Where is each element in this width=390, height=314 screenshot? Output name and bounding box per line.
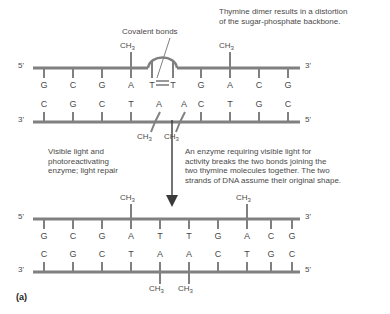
methyl-label: CH3 bbox=[164, 132, 179, 141]
base: A bbox=[223, 80, 237, 90]
strand-end-3prime: 3' bbox=[305, 212, 311, 221]
base: A bbox=[182, 249, 196, 259]
base: C bbox=[95, 249, 109, 259]
panel-label: (a) bbox=[16, 292, 27, 302]
strand-end-5prime: 5' bbox=[305, 265, 311, 274]
repaired-top-strand bbox=[33, 204, 300, 229]
base: G bbox=[95, 80, 109, 90]
methyl-stems bbox=[131, 204, 247, 219]
left-process-text: Visible light and photoreactivating enzy… bbox=[48, 147, 118, 176]
methyl-label: CH3 bbox=[149, 284, 164, 293]
methyl-label: CH3 bbox=[236, 193, 251, 202]
base: C bbox=[66, 80, 80, 90]
damaged-top-strand bbox=[33, 38, 300, 85]
strand-end-3prime: 3' bbox=[305, 61, 311, 70]
base: G bbox=[66, 249, 80, 259]
damaged-bottom-strand bbox=[33, 112, 300, 132]
methyl-label: CH3 bbox=[137, 132, 152, 141]
base: G bbox=[95, 231, 109, 241]
base: G bbox=[211, 231, 225, 241]
base: C bbox=[281, 99, 295, 109]
base: G bbox=[37, 231, 51, 241]
base: T bbox=[124, 249, 138, 259]
base: T bbox=[124, 99, 138, 109]
strand-end-3prime: 3' bbox=[18, 265, 24, 274]
base: T bbox=[223, 99, 237, 109]
base: A bbox=[152, 99, 166, 109]
methyl-label: CH3 bbox=[120, 41, 135, 50]
base: A bbox=[240, 231, 254, 241]
base: C bbox=[252, 80, 266, 90]
base: C bbox=[95, 99, 109, 109]
distortion-note-text: Thymine dimer results in a distortion of… bbox=[219, 7, 348, 26]
base: A bbox=[124, 80, 138, 90]
right-process-text: An enzyme requiring visible light for ac… bbox=[185, 147, 341, 185]
base: A bbox=[124, 231, 138, 241]
strand-end-3prime: 3' bbox=[18, 115, 24, 124]
base: G bbox=[66, 99, 80, 109]
methyl-stems bbox=[131, 52, 230, 68]
methyl-stems bbox=[160, 272, 189, 284]
base: G bbox=[264, 249, 278, 259]
base: G bbox=[37, 80, 51, 90]
base: C bbox=[37, 249, 51, 259]
base: C bbox=[194, 99, 208, 109]
base-thymine-dimer: T bbox=[145, 80, 159, 90]
base: G bbox=[194, 80, 208, 90]
methyl-label: CH3 bbox=[120, 193, 135, 202]
strand-end-5prime: 5' bbox=[305, 115, 311, 124]
base: C bbox=[264, 231, 278, 241]
base: T bbox=[153, 231, 167, 241]
base: C bbox=[211, 249, 225, 259]
repaired-bottom-strand bbox=[33, 262, 300, 284]
base: T bbox=[240, 249, 254, 259]
base: A bbox=[153, 249, 167, 259]
base: A bbox=[177, 99, 191, 109]
base: C bbox=[66, 231, 80, 241]
methyl-label: CH3 bbox=[219, 41, 234, 50]
base-thymine-dimer: T bbox=[166, 80, 180, 90]
base: C bbox=[37, 99, 51, 109]
base: G bbox=[252, 99, 266, 109]
base: G bbox=[285, 231, 299, 241]
base: T bbox=[182, 231, 196, 241]
base: C bbox=[285, 249, 299, 259]
covalent-bonds-label: Covalent bonds bbox=[122, 27, 178, 36]
base: G bbox=[281, 80, 295, 90]
strand-end-5prime: 5' bbox=[18, 212, 24, 221]
methyl-label: CH3 bbox=[178, 284, 193, 293]
strand-end-5prime: 5' bbox=[18, 61, 24, 70]
